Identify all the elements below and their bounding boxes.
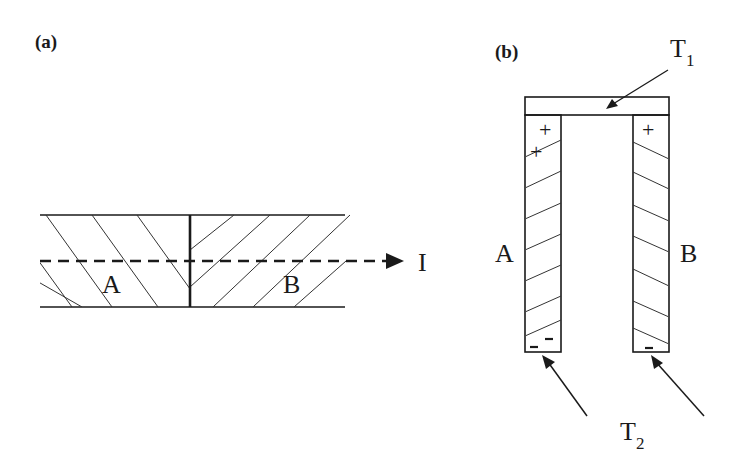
- leg-b-label: B: [680, 239, 697, 268]
- t2-arrowhead-a-icon: [542, 355, 555, 369]
- hot-junction-bar: [525, 97, 669, 115]
- material-b-hatch: [190, 215, 350, 307]
- panel-a: (a) A B I: [0, 31, 427, 307]
- t2-label: T2: [620, 417, 644, 453]
- t1-label: T1: [670, 34, 694, 70]
- panel-b: (b) + + +: [495, 34, 704, 453]
- leg-a-hatch: [525, 140, 561, 336]
- panel-a-label: (a): [35, 31, 57, 53]
- current-label: I: [418, 248, 427, 277]
- t1-arrowhead-icon: [606, 99, 618, 109]
- t2-pointer-line-b: [656, 362, 704, 416]
- current-arrowhead-icon: [386, 253, 404, 269]
- t1-pointer-line: [613, 70, 668, 104]
- material-a-label: A: [102, 270, 121, 299]
- leg-b-hatch: [633, 142, 669, 344]
- positive-charge-a2: +: [530, 139, 542, 164]
- thermoelectric-diagram: (a) A B I (b): [0, 0, 739, 463]
- t2-pointer-line-a: [548, 362, 587, 416]
- leg-a-label: A: [495, 239, 514, 268]
- panel-b-label: (b): [495, 41, 518, 63]
- positive-charge-b: +: [642, 117, 654, 142]
- material-b-label: B: [283, 270, 300, 299]
